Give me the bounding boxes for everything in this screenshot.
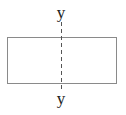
axis-label-bottom: y — [57, 89, 66, 108]
axis-label-top: y — [57, 3, 66, 22]
rectangle-axis-diagram: y y — [0, 0, 126, 115]
